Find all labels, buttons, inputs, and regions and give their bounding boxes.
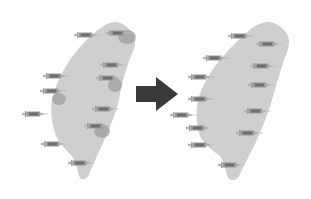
right-island-map <box>170 22 289 180</box>
right-arrow-icon <box>136 77 178 111</box>
left-island-map <box>22 22 136 179</box>
syringe-icon <box>170 112 197 118</box>
island-shape-right <box>197 22 289 180</box>
diagram-canvas <box>0 0 311 199</box>
cluster-patch <box>52 93 66 105</box>
syringe-icon <box>22 111 49 117</box>
